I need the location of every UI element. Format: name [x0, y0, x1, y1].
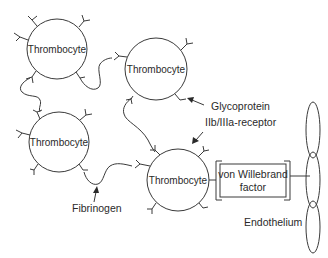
- receptor-icon: [175, 94, 186, 100]
- receptor-icon: [147, 203, 156, 214]
- receptor-icon: [14, 33, 28, 41]
- fibrinogen-bridge-2-4: [123, 98, 155, 152]
- thrombocyte-1: Thrombocyte: [27, 19, 87, 79]
- glycoprotein-annotation: Glycoprotein IIb/IIIa-receptor: [187, 97, 277, 144]
- receptor-icon: [199, 203, 208, 208]
- receptor-icon: [198, 146, 209, 157]
- thrombocyte-2: Thrombocyte: [125, 38, 187, 100]
- fibrinogen-bridge-3-4: [84, 164, 132, 185]
- receptor-icon: [16, 130, 30, 138]
- thrombocyte-4-label: Thrombocyte: [149, 175, 208, 186]
- receptor-icon: [76, 72, 85, 78]
- receptor-icon: [181, 38, 193, 50]
- endothelium: [306, 102, 320, 253]
- receptor-icon: [135, 160, 150, 168]
- vwf-label-line1: von Willebrand: [218, 168, 288, 180]
- receptor-icon: [80, 109, 92, 120]
- thrombocyte-3-label: Thrombocyte: [30, 137, 89, 148]
- thrombocyte-4: Thrombocyte: [147, 149, 209, 211]
- thrombocyte-3: Thrombocyte: [29, 112, 89, 172]
- receptor-icon: [28, 16, 37, 26]
- receptor-icon: [26, 71, 36, 83]
- fibrinogen-bridge-1-3: [20, 78, 40, 112]
- vwf-label-line2: factor: [240, 181, 267, 193]
- fibrinogen-label: Fibrinogen: [72, 202, 122, 214]
- fibrinogen-annotation: Fibrinogen: [72, 186, 122, 214]
- endothelial-cell: [306, 152, 320, 208]
- glycoprotein-label-line2: IIb/IIIa-receptor: [205, 116, 277, 128]
- receptor-icon: [79, 164, 88, 170]
- von-willebrand-factor: von Willebrand factor: [209, 161, 310, 200]
- arrow-head-icon: [187, 97, 194, 103]
- endothelial-cell: [306, 201, 320, 253]
- endothelium-label: Endothelium: [244, 216, 303, 228]
- receptor-icon: [79, 15, 90, 27]
- receptor-icon: [114, 52, 127, 60]
- endothelial-cell: [306, 102, 320, 158]
- glycoprotein-label-line1: Glycoprotein: [211, 100, 270, 112]
- receptor-icon: [30, 164, 38, 175]
- thrombocyte-2-label: Thrombocyte: [127, 64, 186, 75]
- fibrinogen-bridge-1-2: [80, 58, 112, 89]
- arrow-head-icon: [93, 186, 99, 193]
- platelet-aggregation-diagram: Thrombocyte Thrombocyte Thrombocyte Thro…: [0, 0, 328, 258]
- thrombocyte-1-label: Thrombocyte: [28, 44, 87, 55]
